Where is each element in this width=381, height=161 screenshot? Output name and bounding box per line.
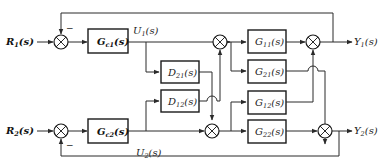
feedback2-minus-sign: − — [66, 140, 74, 150]
block-g12: G12(s) — [248, 91, 286, 114]
block-gc2: Gc2(s) — [88, 119, 129, 143]
u2-label: U2(s) — [136, 147, 162, 160]
s3-to-g21-line — [231, 42, 246, 71]
summing-junction-6 — [318, 124, 332, 138]
block-g22: G22(s) — [248, 120, 286, 143]
block-g11: G11(s) — [248, 30, 286, 53]
d12-to-s3-line — [199, 50, 220, 101]
block-g21: G21(s) — [248, 60, 286, 83]
r2-label: R2(s) — [5, 125, 34, 138]
u1-label: U1(s) — [133, 25, 159, 38]
y1-label: Y1(s) — [354, 36, 378, 49]
summing-junction-1 — [54, 35, 68, 49]
summing-junction-4 — [205, 124, 219, 138]
summing-junction-2 — [54, 124, 68, 138]
block-d12: D12(s) — [161, 90, 199, 112]
block-gc1: Gc1(s) — [88, 29, 129, 53]
summing-junction-3 — [213, 35, 227, 49]
feedback1-minus-sign: − — [66, 23, 74, 33]
u1-to-d21-line — [146, 42, 159, 72]
summing-junction-5 — [306, 35, 320, 49]
y2-label: Y2(s) — [354, 125, 378, 138]
decoupling-control-block-diagram: Gc1(s) U1(s) D21(s) G11(s) G21(s) Y1(s) — [0, 0, 381, 161]
r1-label: R1(s) — [5, 36, 34, 49]
u2-to-d12-line — [146, 101, 159, 131]
block-d21: D21(s) — [161, 61, 199, 83]
s4-to-g12-line — [231, 102, 246, 131]
g12-to-s5-line — [286, 50, 313, 102]
